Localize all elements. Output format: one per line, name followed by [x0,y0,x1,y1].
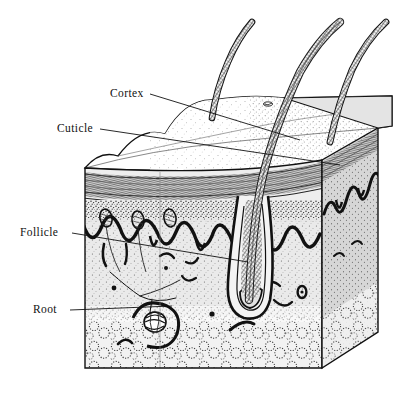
label-follicle: Follicle [20,226,58,238]
label-root: Root [33,303,57,315]
label-cuticle: Cuticle [57,122,93,134]
skin-front-face [83,160,326,372]
subcutaneous-fat-layer [83,306,326,372]
label-cortex: Cortex [110,87,144,99]
skin-cross-section-diagram: Cortex Cuticle Follicle Root [0,0,412,409]
skin-anatomy-figure: Cortex Cuticle Follicle Root [0,0,412,409]
